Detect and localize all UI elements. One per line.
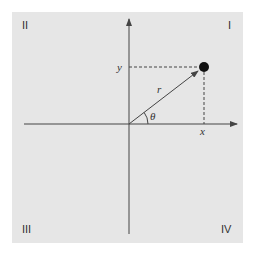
quadrant-label-I: I [228,19,231,31]
x-coordinate-label: x [199,125,205,137]
quadrant-label-II: II [22,19,28,31]
theta-label: θ [150,110,156,122]
quadrant-label-IV: IV [221,223,232,235]
plot-background [12,12,243,243]
quadrant-label-III: III [22,223,31,235]
radius-label: r [157,83,162,95]
y-coordinate-label: y [116,61,122,73]
point-marker [199,62,209,72]
polar-coordinate-diagram: II I III IV y x r θ [0,0,254,254]
